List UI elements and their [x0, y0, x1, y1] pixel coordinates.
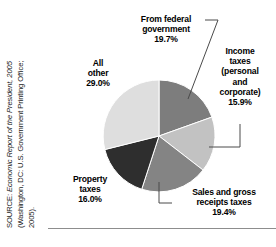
pie-label-income-taxes-line-4: and	[233, 77, 248, 87]
source-note-line-3: 2005).	[28, 207, 36, 228]
pie-label-sales-line-2: receipts taxes	[196, 197, 251, 207]
pie-label-from-federal-government: From federal government 19.7%	[118, 14, 214, 45]
pie-label-from-federal-government-value: 19.7%	[154, 34, 178, 44]
source-note-prefix: SOURCE:	[5, 192, 14, 228]
pie-label-income-taxes-line-2: taxes	[229, 56, 250, 66]
pie-label-sales-value: 19.4%	[212, 207, 236, 217]
pie-label-income-taxes: Income taxes (personal and corporate) 15…	[206, 46, 274, 107]
source-note-line-1: SOURCE: Economic Report of the President…	[6, 61, 14, 228]
bottom-divider-rule	[48, 228, 276, 229]
pie-label-sales-and-gross-receipts-taxes: Sales and gross receipts taxes 19.4%	[172, 187, 276, 218]
pie-label-property-taxes-line-2: taxes	[79, 184, 100, 194]
pie-label-income-taxes-line-5: corporate)	[220, 87, 261, 97]
pie-label-property-taxes-value: 16.0%	[78, 194, 102, 204]
pie-label-all-other-line-1: All	[93, 58, 104, 68]
pie-label-income-taxes-line-3: (personal	[221, 66, 258, 76]
pie-label-all-other-line-2: other	[88, 68, 109, 78]
source-note: SOURCE: Economic Report of the President…	[2, 6, 46, 228]
pie-label-all-other-value: 29.0%	[86, 78, 110, 88]
source-note-line-2: (Washington, DC: U.S. Government Printin…	[17, 61, 25, 228]
pie-label-property-taxes: Property taxes 16.0%	[52, 174, 128, 205]
pie-label-property-taxes-line-1: Property	[73, 174, 107, 184]
pie-label-from-federal-government-line-2: government	[142, 24, 190, 34]
pie-chart-figure: SOURCE: Economic Report of the President…	[0, 0, 276, 247]
pie-label-sales-line-1: Sales and gross	[192, 187, 256, 197]
pie-label-all-other: All other 29.0%	[62, 58, 134, 89]
pie-label-income-taxes-value: 15.9%	[228, 97, 252, 107]
pie-label-from-federal-government-line-1: From federal	[141, 14, 191, 24]
source-note-title: Economic Report of the President, 2005	[5, 61, 14, 192]
pie-label-income-taxes-line-1: Income	[225, 46, 254, 56]
